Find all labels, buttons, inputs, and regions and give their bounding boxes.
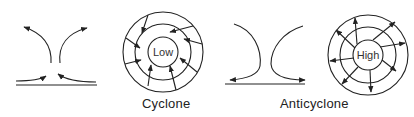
anticyclone-plan-view: High (328, 15, 408, 95)
descending-left-arrow (230, 24, 260, 80)
cyclone-plan-view: Low (123, 12, 203, 92)
anticyclone-caption: Anticyclone (280, 96, 349, 111)
cyclone-center-label: Low (153, 46, 173, 58)
cyclone-side-view (16, 27, 97, 85)
rising-right-arrow (60, 28, 87, 63)
converging-left-arrow (16, 76, 46, 81)
diagram-canvas: Low High (0, 0, 414, 117)
cyclone-caption: Cyclone (142, 96, 190, 111)
anticyclone-side-view (225, 24, 305, 84)
converging-right-arrow (58, 74, 96, 82)
rising-left-arrow (24, 27, 51, 63)
anticyclone-center-label: High (357, 49, 380, 61)
descending-right-arrow (271, 26, 305, 80)
